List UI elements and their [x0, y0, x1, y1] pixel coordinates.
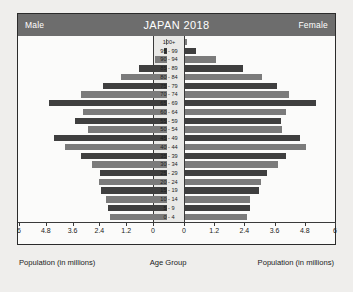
- footer-axis-labels: Population (in millions) Age Group Popul…: [17, 258, 336, 274]
- x-tick-label-left: 3.6: [68, 227, 78, 234]
- female-bar: [185, 74, 262, 80]
- female-bar: [185, 83, 277, 89]
- age-group-label: 65 - 69: [154, 99, 184, 107]
- pyramid-row: 25 - 29: [18, 169, 335, 177]
- age-group-label: 60 - 64: [154, 108, 184, 116]
- female-bar: [185, 135, 300, 141]
- female-bar: [185, 170, 267, 176]
- x-tick-label-right: 4.8: [300, 227, 310, 234]
- pyramid-row: 75 - 79: [18, 82, 335, 90]
- tick-mark: [46, 222, 47, 226]
- pyramid-row: 100+: [18, 38, 335, 46]
- pyramid-row: 70 - 74: [18, 90, 335, 98]
- pyramid-row: 40 - 44: [18, 143, 335, 151]
- female-bar: [185, 214, 247, 220]
- female-bar: [185, 196, 250, 202]
- chart-title: JAPAN 2018: [18, 19, 335, 31]
- female-bar: [185, 39, 187, 45]
- tick-mark: [126, 222, 127, 226]
- age-group-label: 5 - 9: [154, 204, 184, 212]
- age-group-label: 80 - 84: [154, 73, 184, 81]
- tick-mark: [335, 222, 336, 226]
- male-axis-title: Population (in millions): [19, 258, 95, 267]
- x-tick-label-left: 4.8: [41, 227, 51, 234]
- pyramid-row: 60 - 64: [18, 108, 335, 116]
- age-group-label: 85 - 89: [154, 64, 184, 72]
- axis-baseline: [18, 222, 335, 223]
- age-group-label: 30 - 34: [154, 160, 184, 168]
- pyramid-row: 10 - 14: [18, 195, 335, 203]
- pyramid-row: 15 - 19: [18, 186, 335, 194]
- female-bar: [185, 48, 196, 54]
- female-bar: [185, 109, 286, 115]
- pyramid-row: 95 - 99: [18, 47, 335, 55]
- x-tick-label-right: 6: [333, 227, 337, 234]
- age-group-label: 15 - 19: [154, 186, 184, 194]
- x-axis: 64.83.62.41.2001.22.43.64.86: [18, 222, 335, 245]
- age-group-label: 90 - 94: [154, 55, 184, 63]
- male-bar: [54, 135, 167, 141]
- pyramid-row: 85 - 89: [18, 64, 335, 72]
- pyramid-row: 0 - 4: [18, 213, 335, 221]
- pyramid-row: 90 - 94: [18, 55, 335, 63]
- age-group-label: 50 - 54: [154, 125, 184, 133]
- pyramid-row: 55 - 59: [18, 117, 335, 125]
- plot-area: 100+95 - 9990 - 9485 - 8980 - 8475 - 797…: [18, 36, 335, 222]
- female-bar: [185, 100, 316, 106]
- x-tick-label-left: 6: [17, 227, 21, 234]
- age-group-label: 55 - 59: [154, 117, 184, 125]
- female-bar: [185, 126, 282, 132]
- male-bar: [49, 100, 167, 106]
- x-tick-label-right: 0: [182, 227, 186, 234]
- female-bar: [185, 187, 259, 193]
- tick-mark: [305, 222, 306, 226]
- female-bar: [185, 144, 306, 150]
- pyramid-row: 45 - 49: [18, 134, 335, 142]
- male-legend-label: Male: [25, 20, 44, 30]
- x-tick-label-right: 1.2: [209, 227, 219, 234]
- female-axis-title: Population (in millions): [258, 258, 334, 267]
- chart-header-bar: Male JAPAN 2018 Female: [18, 14, 335, 36]
- female-bar: [185, 65, 243, 71]
- pyramid-row: 20 - 24: [18, 178, 335, 186]
- pyramid-row: 35 - 39: [18, 152, 335, 160]
- tick-mark: [214, 222, 215, 226]
- tick-mark: [73, 222, 74, 226]
- pyramid-row: 80 - 84: [18, 73, 335, 81]
- tick-mark: [244, 222, 245, 226]
- age-group-label: 75 - 79: [154, 82, 184, 90]
- age-group-label: 10 - 14: [154, 195, 184, 203]
- age-group-label: 100+: [154, 38, 184, 46]
- x-tick-label-left: 0: [151, 227, 155, 234]
- tick-mark: [19, 222, 20, 226]
- age-group-label: 20 - 24: [154, 178, 184, 186]
- female-bar: [185, 179, 261, 185]
- x-tick-label-right: 3.6: [270, 227, 280, 234]
- age-group-label: 40 - 44: [154, 143, 184, 151]
- age-group-label: 95 - 99: [154, 47, 184, 55]
- tick-mark: [99, 222, 100, 226]
- age-group-label: 0 - 4: [154, 213, 184, 221]
- tick-mark: [184, 222, 185, 226]
- pyramid-row: 65 - 69: [18, 99, 335, 107]
- female-legend-label: Female: [298, 20, 328, 30]
- pyramid-row: 50 - 54: [18, 125, 335, 133]
- x-tick-label-left: 2.4: [95, 227, 105, 234]
- female-bar: [185, 56, 216, 62]
- pyramid-row: 30 - 34: [18, 160, 335, 168]
- age-group-axis-title: Age Group: [150, 258, 187, 267]
- bar-rows: 100+95 - 9990 - 9485 - 8980 - 8475 - 797…: [18, 38, 335, 220]
- x-tick-label-left: 1.2: [121, 227, 131, 234]
- female-bar: [185, 118, 281, 124]
- male-bar: [65, 144, 167, 150]
- population-pyramid-chart: Male JAPAN 2018 Female 100+95 - 9990 - 9…: [17, 13, 336, 245]
- tick-mark: [275, 222, 276, 226]
- age-group-label: 35 - 39: [154, 152, 184, 160]
- pyramid-row: 5 - 9: [18, 204, 335, 212]
- female-bar: [185, 205, 250, 211]
- age-group-label: 25 - 29: [154, 169, 184, 177]
- female-bar: [185, 161, 278, 167]
- x-tick-label-right: 2.4: [240, 227, 250, 234]
- age-group-label: 70 - 74: [154, 90, 184, 98]
- female-bar: [185, 91, 289, 97]
